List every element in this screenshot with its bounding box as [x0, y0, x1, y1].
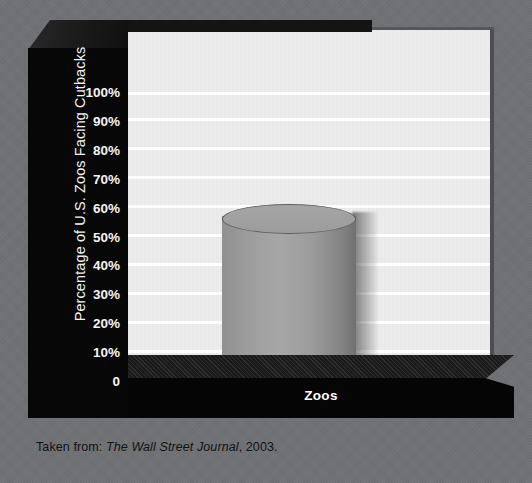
x-axis-label: Zoos: [128, 388, 514, 403]
y-axis-tick-label: 40%: [93, 258, 120, 273]
y-axis-tick-label: 100%: [85, 85, 120, 100]
bar-cylinder-zoos[interactable]: [222, 204, 356, 376]
cylinder-body: [222, 216, 356, 364]
y-axis-tick-label: 60%: [93, 200, 120, 215]
caption-source: The Wall Street Journal: [106, 440, 239, 454]
cylinder-top-cap: [222, 204, 356, 234]
y-axis-tick-label: 20%: [93, 316, 120, 331]
y-axis-tick-label: 30%: [93, 287, 120, 302]
y-axis-tick-label: 90%: [93, 113, 120, 128]
plot-wall-right-edge: [490, 30, 494, 355]
y-axis-tick-label: 70%: [93, 171, 120, 186]
y-axis-block: Percentage of U.S. Zoos Facing Cutbacks …: [28, 48, 128, 418]
gridline: [128, 118, 490, 121]
gridline: [128, 176, 490, 179]
y-axis-tick-label: 80%: [93, 142, 120, 157]
caption-prefix: Taken from:: [36, 440, 102, 454]
y-axis-tick-label: 50%: [93, 229, 120, 244]
caption-suffix: , 2003.: [239, 440, 278, 454]
floor-surface: [128, 355, 514, 381]
y-axis-tick-list: 100%90%80%70%60%50%40%30%20%10%0: [58, 48, 124, 418]
caption: Taken from: The Wall Street Journal, 200…: [36, 440, 278, 454]
gridline: [128, 92, 490, 95]
y-axis-tick-label: 10%: [93, 345, 120, 360]
gridline: [128, 147, 490, 150]
y-axis-tick-label: 0: [112, 374, 120, 389]
chart-figure: Zoos Percentage of U.S. Zoos Facing Cutb…: [0, 0, 532, 430]
